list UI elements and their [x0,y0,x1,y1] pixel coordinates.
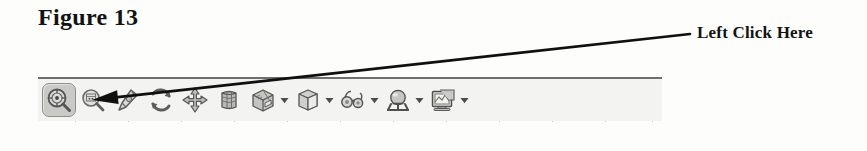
clipped-box-button[interactable] [246,83,280,117]
render-display-button[interactable] [426,83,460,117]
toolbar-item-zoom-realtime[interactable] [42,80,76,120]
monitor-render-icon [429,86,457,114]
move-button[interactable] [178,83,212,117]
toolbar-item-glasses[interactable] [336,80,381,120]
box-button[interactable] [291,83,325,117]
toolbar-item-cylinder[interactable] [212,80,246,120]
3d-view-toolbar[interactable] [38,77,662,121]
zoom-window-button[interactable] [76,83,110,117]
cylinder-button[interactable] [212,83,246,117]
pan-hand-button[interactable] [110,83,144,117]
refresh-arrows-icon [147,86,175,114]
pen-pointer-icon [113,86,141,114]
glasses-dropdown-arrow[interactable] [369,85,380,115]
cylinder-mesh-icon [215,86,243,114]
figure-page: Figure 13 Left Click Here [0,0,867,151]
magnifier-target-icon [45,86,73,114]
toolbar-item-light-sphere[interactable] [381,80,426,120]
toolbar-item-move[interactable] [178,80,212,120]
orbit-refresh-button[interactable] [144,83,178,117]
magnifier-window-icon [79,86,107,114]
figure-caption: Figure 13 [38,4,138,31]
clipped-box-dropdown-arrow[interactable] [279,85,290,115]
light-sphere-dropdown-arrow[interactable] [414,85,425,115]
box-dropdown-arrow[interactable] [324,85,335,115]
zoom-realtime-button[interactable] [42,83,76,117]
four-way-arrows-icon [181,86,209,114]
sphere-light-icon [384,86,412,114]
toolbar-item-box[interactable] [291,80,336,120]
toolbar-item-orbit-refresh[interactable] [144,80,178,120]
toolbar-item-zoom-window[interactable] [76,80,110,120]
toolbar-item-render-display[interactable] [426,80,471,120]
toolbar-item-clipped-box[interactable] [246,80,291,120]
clipped-box-icon [249,86,277,114]
glasses-icon [339,86,367,114]
render-display-dropdown-arrow[interactable] [459,85,470,115]
glasses-button[interactable] [336,83,370,117]
toolbar-item-pan-hand[interactable] [110,80,144,120]
light-sphere-button[interactable] [381,83,415,117]
callout-label: Left Click Here [697,23,813,43]
shaded-cube-icon [294,86,322,114]
